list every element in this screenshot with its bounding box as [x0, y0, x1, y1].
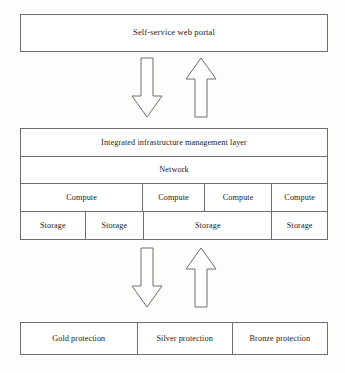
portal-label: Self-service web portal: [21, 15, 327, 51]
storage-row: Storage Storage Storage Storage: [21, 211, 327, 239]
arrow-up-protection-to-infrastructure-icon: [185, 248, 217, 308]
protection-tier-silver: Silver protection: [137, 323, 232, 354]
compute-cell: Compute: [271, 184, 327, 211]
storage-cell: Storage: [21, 212, 85, 239]
compute-cell: Compute: [204, 184, 272, 211]
arrow-down-infrastructure-to-protection-icon: [131, 248, 163, 308]
network-row: Network: [21, 156, 327, 184]
compute-row: Compute Compute Compute Compute: [21, 183, 327, 211]
compute-cell: Compute: [142, 184, 204, 211]
self-service-web-portal-box: Self-service web portal: [20, 14, 328, 52]
storage-cell: Storage: [143, 212, 271, 239]
integrated-infrastructure-stack: Integrated infrastructure management lay…: [20, 128, 328, 240]
protection-tiers-box: Gold protection Silver protection Bronze…: [20, 322, 328, 355]
compute-cell: Compute: [21, 184, 142, 211]
network-label: Network: [21, 157, 327, 184]
storage-cell: Storage: [85, 212, 144, 239]
management-layer-row: Integrated infrastructure management lay…: [21, 129, 327, 156]
arrow-up-infrastructure-to-portal-icon: [185, 58, 217, 118]
diagram-canvas: Self-service web portal Integrated infra…: [0, 0, 345, 373]
protection-tier-gold: Gold protection: [21, 323, 137, 354]
arrow-down-portal-to-infrastructure-icon: [131, 58, 163, 118]
protection-tier-bronze: Bronze protection: [232, 323, 327, 354]
management-layer-label: Integrated infrastructure management lay…: [21, 129, 327, 156]
storage-cell: Storage: [271, 212, 327, 239]
